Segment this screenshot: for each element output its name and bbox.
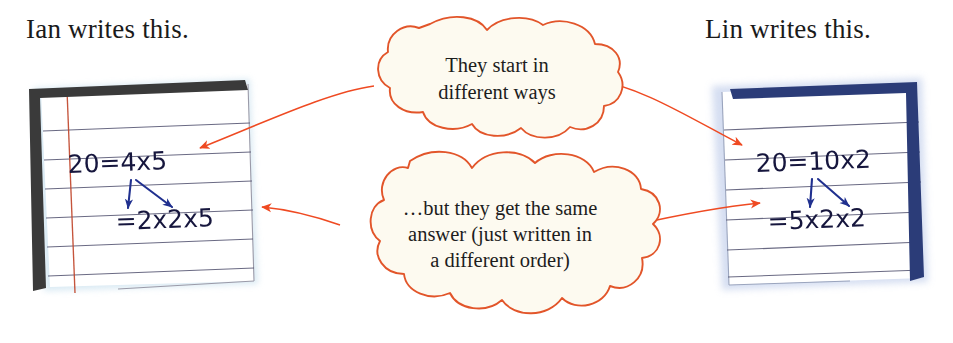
cloud-bottom-line-3: a different order) <box>430 249 570 272</box>
cloud-bottom-line-1: …but they get the same <box>403 197 598 220</box>
notebook-left-equation-2-text: =2x2x5 <box>115 203 214 236</box>
cloud-bottom-line-2: answer (just written in <box>408 223 592 246</box>
notebook-right-equation-2: =5x2x2 <box>767 203 866 236</box>
cloud-top-line-1: They start in <box>445 54 549 77</box>
cloud-bottom: …but they get the same answer (just writ… <box>371 152 660 313</box>
notebook-left-equation-1: 20=4x5 <box>67 146 167 179</box>
cloud-top: They start in different ways <box>378 17 622 138</box>
notebook-right-equation-1-text: 20=10x2 <box>755 145 871 178</box>
diagram-canvas: Ian writes this. Lin writes this. <box>0 0 953 343</box>
notebook-left-equation-1-text: 20=4x5 <box>67 146 167 179</box>
notebook-right-equation-1: 20=10x2 <box>755 145 871 178</box>
cloud-top-shape <box>378 17 622 138</box>
notebook-right-equation-2-text: =5x2x2 <box>767 203 866 236</box>
diagram-svg-layer: 20=4x5 =2x2x5 <box>0 0 953 343</box>
notebook-right-paper <box>722 84 922 285</box>
cloud-top-line-2: different ways <box>438 81 555 104</box>
connector-bottom-cloud-to-left-note <box>262 207 340 225</box>
notebook-left-equation-2: =2x2x5 <box>115 203 214 236</box>
notebook-right: 20=10x2 =5x2x2 <box>712 78 928 290</box>
notebook-left: 20=4x5 =2x2x5 <box>29 79 258 293</box>
